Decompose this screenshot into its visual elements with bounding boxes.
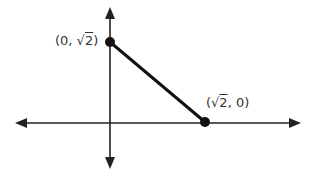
coordinate-plane: [0, 0, 309, 176]
y-axis-down-arrow-icon: [105, 157, 115, 169]
point-a-label-prefix: (0, √: [55, 33, 85, 48]
point-b: [200, 117, 210, 127]
point-b-label-radicand: 2: [219, 95, 227, 110]
point-a-label: (0, √2): [55, 34, 98, 47]
point-b-label: (√2, 0): [206, 96, 249, 109]
point-a-label-suffix: ): [93, 33, 98, 48]
point-a-label-radicand: 2: [85, 33, 93, 48]
segment-ab: [110, 42, 205, 122]
y-axis-up-arrow-icon: [105, 7, 115, 19]
x-axis-right-arrow-icon: [289, 118, 301, 128]
x-axis-left-arrow-icon: [15, 118, 27, 128]
point-b-label-prefix: (√: [206, 95, 219, 110]
point-b-label-suffix: , 0): [228, 95, 250, 110]
point-a: [105, 37, 115, 47]
